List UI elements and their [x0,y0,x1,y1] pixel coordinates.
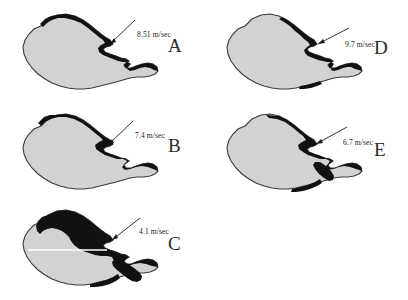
panel-letter-d: D [374,38,388,57]
velocity-label-c: 4.1 m/sec [139,227,169,236]
blob-shape-c [23,210,158,287]
velocity-arrow-c [112,218,140,240]
blob-shape-b [23,114,158,189]
panel-letter-e: E [374,140,386,159]
panel-b: 7.4 m/sec B [0,104,204,204]
velocity-arrow-a [110,20,135,44]
panel-d: 9.7 m/sec D [204,4,408,104]
blob-fill-b [23,114,158,189]
blob-shape-d [227,14,362,89]
velocity-label-d: 9.7 m/sec [345,40,375,49]
panel-c: 4.1 m/sec C [0,200,204,300]
velocity-arrow-b [108,121,133,145]
blob-fill-d [227,14,362,89]
panel-letter-c: C [168,234,181,253]
blob-shape-e [227,114,362,192]
velocity-label-b: 7.4 m/sec [135,131,165,140]
panel-letter-b: B [168,136,181,155]
panel-e: 6.7 m/sec E [204,104,408,204]
panel-letter-a: A [168,36,182,55]
figure-panel-grid: 8.51 m/sec A 7.4 m/sec B [0,0,408,300]
panel-a: 8.51 m/sec A [0,4,204,104]
velocity-label-a: 8.51 m/sec [137,30,171,39]
blob-fill-e [227,114,362,189]
blob-shape-a [23,14,158,89]
velocity-label-e: 6.7 m/sec [343,138,373,147]
